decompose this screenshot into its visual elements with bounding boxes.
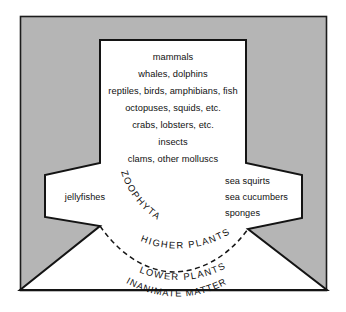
list-line-whales-dolphins: whales, dolphins — [137, 69, 208, 79]
list-line-insects: insects — [158, 137, 188, 147]
right-wing-label-sponges: sponges — [225, 208, 260, 218]
right-wing-label-sea-squirts: sea squirts — [225, 176, 270, 186]
list-line-octopuses-squids: octopuses, squids, etc. — [125, 103, 221, 113]
left-wing-group: jellyfishes — [64, 192, 106, 202]
list-line-reptiles-birds-amphibians-fish: reptiles, birds, amphibians, fish — [108, 86, 237, 96]
diagram-canvas: mammals whales, dolphins reptiles, birds… — [0, 0, 346, 312]
right-wing-label-sea-cucumbers: sea cucumbers — [225, 192, 288, 202]
list-line-clams-molluscs: clams, other molluscs — [128, 154, 219, 164]
evolution-pyramid-diagram: mammals whales, dolphins reptiles, birds… — [0, 0, 346, 312]
left-wing-label-jellyfishes: jellyfishes — [64, 192, 106, 202]
list-line-crabs-lobsters: crabs, lobsters, etc. — [132, 120, 214, 130]
list-line-mammals: mammals — [153, 52, 194, 62]
